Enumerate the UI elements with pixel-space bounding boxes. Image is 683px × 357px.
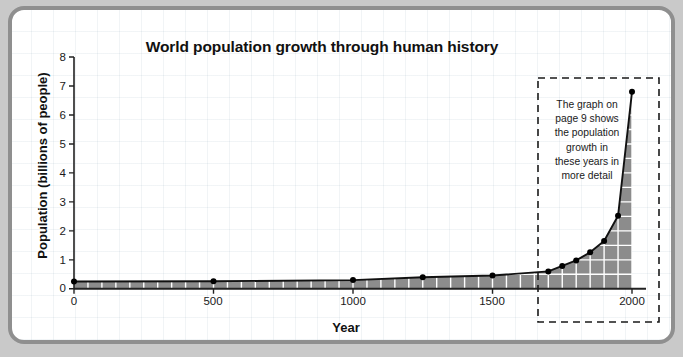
callout-line-6: more detail xyxy=(562,170,613,181)
data-point-marker xyxy=(615,213,621,219)
data-point-marker xyxy=(350,277,356,283)
callout-line-3: the population xyxy=(555,127,620,138)
data-point-marker xyxy=(573,257,579,263)
data-point-marker xyxy=(601,238,607,244)
data-point-marker xyxy=(545,268,551,274)
data-point-marker xyxy=(587,249,593,255)
data-point-marker xyxy=(490,272,496,278)
callout-text: The graph on page 9 shows the population… xyxy=(543,98,631,183)
callout-line-5: these years in xyxy=(555,156,619,167)
data-point-marker xyxy=(71,279,77,285)
data-point-marker xyxy=(629,89,635,95)
callout-line-4: growth in xyxy=(566,142,608,153)
data-point-marker xyxy=(559,263,565,269)
callout-line-1: The graph on xyxy=(556,99,617,110)
chart-card: World population growth through human hi… xyxy=(8,6,675,344)
population-growth-chart: World population growth through human hi… xyxy=(12,10,671,340)
screenshot-root: World population growth through human hi… xyxy=(0,0,683,357)
data-point-marker xyxy=(420,274,426,280)
callout-line-2: page 9 shows xyxy=(555,113,619,124)
data-point-marker xyxy=(211,278,217,284)
